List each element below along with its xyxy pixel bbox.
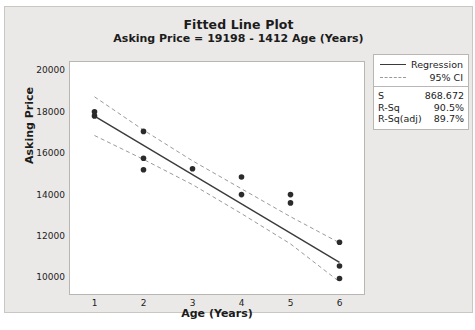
ci-upper-line: [95, 97, 340, 243]
data-point: [288, 192, 294, 198]
legend-dashed-line-icon: [378, 73, 408, 83]
title-block: Fitted Line Plot Asking Price = 19198 - …: [5, 17, 472, 46]
data-point: [141, 167, 147, 173]
plot-area: [69, 61, 365, 295]
ci-lower-line: [95, 136, 340, 282]
data-point: [141, 156, 147, 162]
y-tick-label: 16000: [21, 148, 65, 158]
data-points: [92, 109, 343, 281]
y-tick-label: 10000: [21, 272, 65, 282]
x-axis-title: Age (Years): [69, 307, 365, 320]
statistic-value: 90.5%: [434, 102, 464, 114]
data-point: [337, 276, 343, 282]
regression-line: [95, 116, 340, 262]
chart-panel: Fitted Line Plot Asking Price = 19198 - …: [4, 6, 473, 313]
statistics-box: S868.672R-Sq90.5%R-Sq(adj)89.7%: [373, 86, 469, 130]
statistic-key: R-Sq(adj): [378, 113, 422, 125]
y-tick-label: 14000: [21, 190, 65, 200]
statistic-row: R-Sq90.5%: [378, 102, 464, 114]
page-title: Fitted Line Plot: [5, 17, 472, 32]
statistic-key: R-Sq: [378, 102, 400, 114]
chart-page: Fitted Line Plot Asking Price = 19198 - …: [0, 0, 475, 330]
statistic-value: 868.672: [425, 90, 464, 102]
y-tick-label: 18000: [21, 107, 65, 117]
data-point: [92, 113, 98, 119]
statistic-row: S868.672: [378, 90, 464, 102]
data-point: [141, 129, 147, 135]
data-point: [337, 263, 343, 269]
plot-svg: [70, 62, 364, 294]
regression-equation-subtitle: Asking Price = 19198 - 1412 Age (Years): [5, 32, 472, 46]
data-point: [337, 239, 343, 245]
data-point: [239, 192, 245, 198]
legend-item: 95% CI: [378, 71, 464, 84]
y-tick-label: 12000: [21, 231, 65, 241]
statistic-value: 89.7%: [434, 113, 464, 125]
statistic-row: R-Sq(adj)89.7%: [378, 113, 464, 125]
y-tick-label: 20000: [21, 65, 65, 75]
y-axis-ticks: 100001200014000160001800020000: [15, 61, 65, 295]
data-point: [190, 166, 196, 172]
data-point: [239, 174, 245, 180]
legend-solid-line-icon: [378, 60, 408, 70]
legend: Regression95% CI: [373, 54, 469, 89]
legend-item-label: 95% CI: [408, 72, 464, 83]
data-point: [288, 200, 294, 206]
legend-item: Regression: [378, 58, 464, 71]
statistic-key: S: [378, 90, 384, 102]
regression-fit-line: [95, 116, 340, 262]
legend-item-label: Regression: [408, 59, 464, 70]
